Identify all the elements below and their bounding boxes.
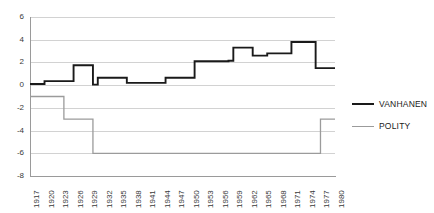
y-axis-tick-label: -6: [2, 149, 24, 157]
x-axis-line: [30, 176, 336, 177]
legend-item-polity: POLITY: [352, 118, 434, 134]
series-plot: [30, 17, 335, 176]
x-axis-tick-label: 1953: [207, 190, 215, 208]
y-axis-tick-label: -4: [2, 127, 24, 135]
x-axis-tick-label: 1965: [265, 190, 273, 208]
x-axis-tick-label: 1944: [164, 190, 172, 208]
x-axis-tick-label: 1956: [222, 190, 230, 208]
y-axis-tick-label: -8: [2, 172, 24, 180]
x-axis-tick-label: 1974: [309, 190, 317, 208]
legend-label-vanhanen: VANHANEN: [379, 99, 427, 109]
chart-legend: VANHANEN POLITY: [352, 96, 434, 140]
y-axis-labels: 6420-2-4-6-8: [0, 0, 26, 213]
legend-item-vanhanen: VANHANEN: [352, 96, 434, 112]
x-axis-tick-label: 1917: [33, 190, 41, 208]
series-line-vanhanen: [30, 42, 335, 85]
chart-container: 6420-2-4-6-8 191719201923192619291932193…: [0, 0, 434, 213]
x-axis-tick-label: 1968: [280, 190, 288, 208]
x-axis-labels: 1917192019231926192919321935193819411944…: [30, 178, 336, 213]
x-axis-tick-label: 1923: [62, 190, 70, 208]
x-axis-tick-label: 1941: [149, 190, 157, 208]
x-axis-tick-label: 1962: [251, 190, 259, 208]
x-axis-tick-label: 1977: [323, 190, 331, 208]
legend-label-polity: POLITY: [379, 121, 410, 131]
y-axis-tick-label: 0: [2, 81, 24, 89]
x-axis-tick-label: 1926: [77, 190, 85, 208]
y-axis-tick-label: 4: [2, 36, 24, 44]
x-axis-tick-label: 1947: [178, 190, 186, 208]
y-axis-tick-label: 6: [2, 13, 24, 21]
series-line-polity: [30, 97, 335, 154]
legend-swatch-icon: [352, 126, 374, 127]
x-axis-tick-label: 1920: [48, 190, 56, 208]
x-axis-tick-label: 1950: [193, 190, 201, 208]
x-axis-tick-label: 1935: [120, 190, 128, 208]
x-axis-tick-label: 1980: [338, 190, 346, 208]
x-axis-tick-label: 1938: [135, 190, 143, 208]
x-axis-tick-label: 1959: [236, 190, 244, 208]
y-axis-tick-label: -2: [2, 104, 24, 112]
x-axis-tick-label: 1971: [294, 190, 302, 208]
x-axis-tick-label: 1929: [91, 190, 99, 208]
y-axis-tick-label: 2: [2, 58, 24, 66]
x-axis-tick-label: 1932: [106, 190, 114, 208]
legend-swatch-icon: [352, 103, 374, 105]
